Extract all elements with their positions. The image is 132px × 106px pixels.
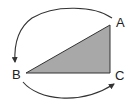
triangle-diagram: A B C <box>0 0 132 106</box>
vertex-label-a: A <box>116 15 125 30</box>
vertex-label-c: C <box>115 68 124 83</box>
arrow-b-to-c <box>23 82 114 98</box>
right-triangle <box>26 25 110 73</box>
vertex-label-b: B <box>12 67 21 82</box>
